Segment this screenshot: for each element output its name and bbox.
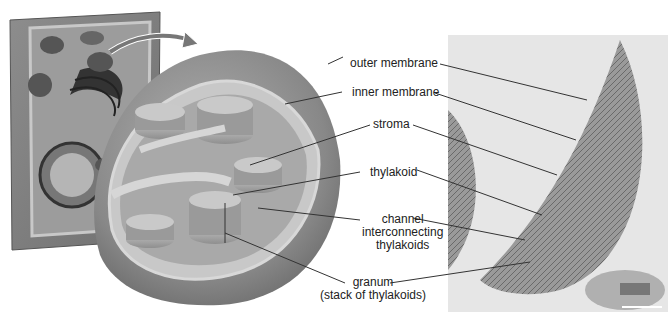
chloroplast-diagram: outer membrane inner membrane stroma thy… [0, 0, 668, 312]
label-granum-line2: (stack of thylakoids) [320, 289, 426, 302]
label-channel: channel interconnecting thylakoids [362, 213, 443, 252]
label-channel-line3: thylakoids [362, 239, 443, 252]
label-stroma: stroma [373, 118, 410, 131]
label-outer-membrane: outer membrane [350, 57, 438, 70]
label-inner-membrane: inner membrane [352, 86, 439, 99]
diagram-artwork [0, 0, 668, 312]
label-thylakoid: thylakoid [370, 166, 417, 179]
label-granum: granum (stack of thylakoids) [320, 276, 426, 302]
electron-micrograph [448, 35, 668, 312]
